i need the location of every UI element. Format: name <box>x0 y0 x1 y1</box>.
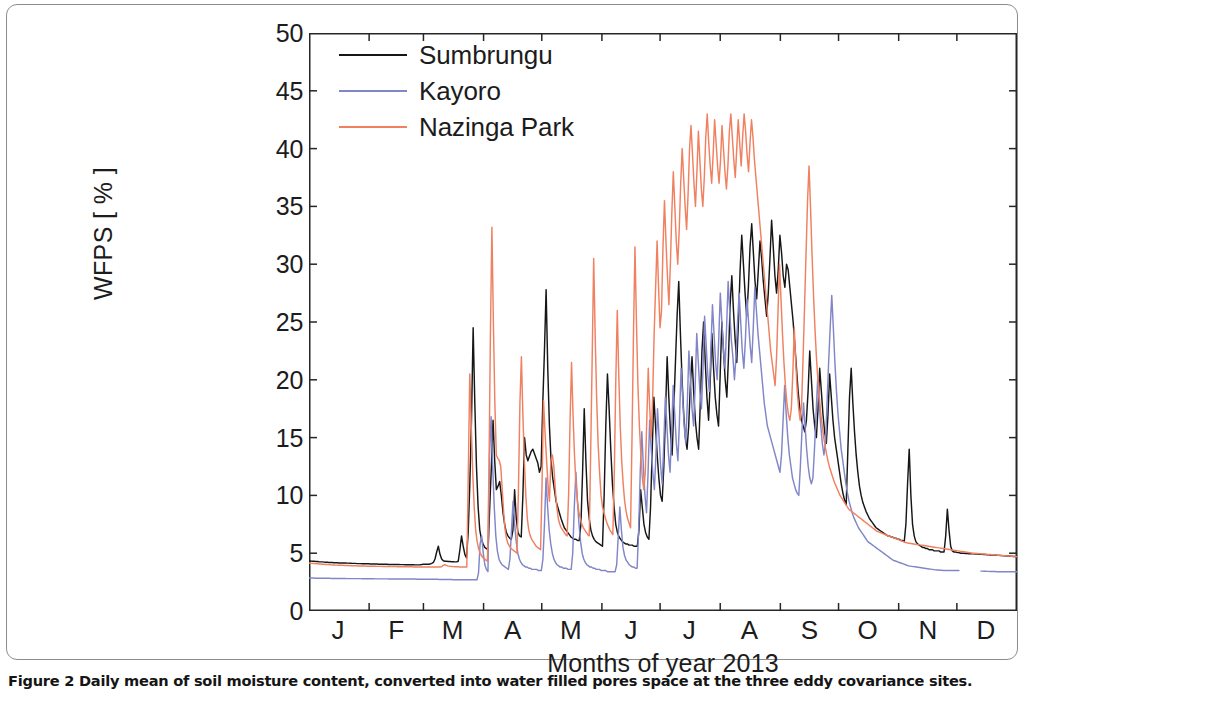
y-axis-tick-labels: 05101520253035404550 <box>243 33 303 611</box>
x-tick-label: O <box>858 615 878 646</box>
y-tick-label: 45 <box>276 76 303 105</box>
x-tick-label: M <box>560 615 582 646</box>
legend-swatch <box>339 54 407 56</box>
x-tick-label: F <box>388 615 404 646</box>
figure-root: WFPS [ % ] 05101520253035404550 Sumbrung… <box>0 0 1232 710</box>
legend-label: Sumbrungu <box>419 40 553 71</box>
x-tick-label: S <box>801 615 818 646</box>
y-axis-title: WFPS [ % ] <box>89 104 118 364</box>
y-tick-label: 0 <box>289 597 303 626</box>
x-axis-tick-labels: JFMAMJJASOND <box>309 615 1017 651</box>
legend-label: Kayoro <box>419 76 501 107</box>
figure-caption-text: Daily mean of soil moisture content, con… <box>79 672 972 689</box>
chart-legend: SumbrunguKayoroNazinga Park <box>339 37 574 145</box>
x-tick-label: J <box>683 615 696 646</box>
figure-caption: Figure 2 Daily mean of soil moisture con… <box>8 672 1218 689</box>
x-tick-label: J <box>332 615 345 646</box>
y-tick-label: 20 <box>276 365 303 394</box>
plot-area: SumbrunguKayoroNazinga Park <box>309 33 1017 611</box>
legend-swatch <box>339 126 407 128</box>
x-tick-label: M <box>442 615 464 646</box>
x-tick-label: J <box>624 615 637 646</box>
y-tick-label: 10 <box>276 481 303 510</box>
y-tick-label: 40 <box>276 134 303 163</box>
y-tick-label: 25 <box>276 308 303 337</box>
y-tick-label: 35 <box>276 192 303 221</box>
legend-label: Nazinga Park <box>419 112 574 143</box>
x-tick-label: D <box>977 615 996 646</box>
y-tick-label: 5 <box>289 539 303 568</box>
legend-item: Nazinga Park <box>339 109 574 145</box>
series-line-kayoro <box>309 282 1017 580</box>
y-tick-label: 50 <box>276 19 303 48</box>
legend-swatch <box>339 90 407 92</box>
x-tick-label: N <box>918 615 937 646</box>
legend-item: Kayoro <box>339 73 574 109</box>
legend-item: Sumbrungu <box>339 37 574 73</box>
figure-panel: WFPS [ % ] 05101520253035404550 Sumbrung… <box>6 4 1018 660</box>
x-tick-label: A <box>504 615 521 646</box>
figure-caption-label: Figure 2 <box>8 672 74 689</box>
x-tick-label: A <box>741 615 758 646</box>
y-tick-label: 15 <box>276 423 303 452</box>
y-tick-label: 30 <box>276 250 303 279</box>
